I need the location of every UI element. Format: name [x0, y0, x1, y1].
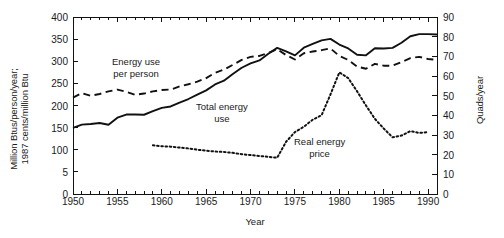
series-total-energy-use — [73, 34, 437, 128]
plot-frame — [73, 17, 437, 194]
energy-chart-figure: Million Btus/person/year; 1987 cents/mil… — [0, 0, 504, 238]
axis-ticks — [73, 17, 437, 194]
series-real-energy-price — [153, 72, 428, 157]
series-energy-use-per-person — [73, 48, 437, 97]
plot-area — [0, 0, 504, 238]
